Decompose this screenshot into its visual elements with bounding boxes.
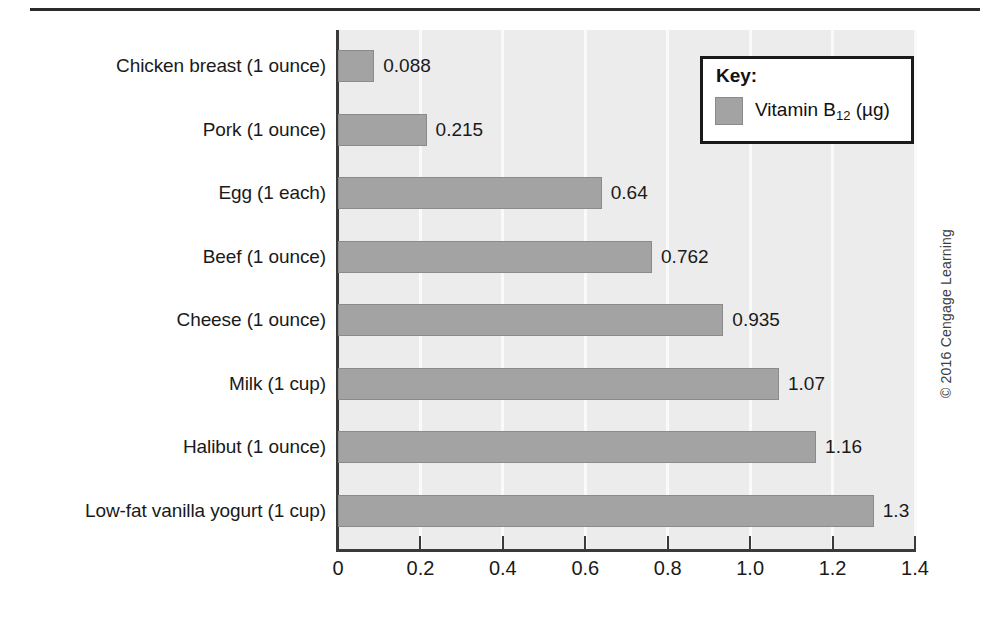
legend-swatch-vitamin-b12 bbox=[715, 97, 743, 125]
bar-value-label: 1.16 bbox=[825, 436, 862, 458]
x-tick-label-0.2: 0.2 bbox=[407, 557, 435, 580]
x-tick-0.4 bbox=[502, 536, 504, 550]
gridline-0.4 bbox=[501, 30, 504, 550]
legend-series-subscript: 12 bbox=[836, 108, 850, 123]
category-label: Chicken breast (1 ounce) bbox=[116, 55, 326, 77]
bar-value-label: 0.088 bbox=[383, 55, 431, 77]
bar-vitamin-b12 bbox=[338, 114, 427, 146]
x-tick-label-0.6: 0.6 bbox=[571, 557, 599, 580]
category-label: Cheese (1 ounce) bbox=[177, 309, 326, 331]
copyright-notice: © 2016 Cengage Learning bbox=[938, 229, 954, 398]
category-label: Low-fat vanilla yogurt (1 cup) bbox=[85, 500, 326, 522]
gridline-0.8 bbox=[666, 30, 669, 550]
bar-vitamin-b12 bbox=[338, 177, 602, 209]
bar-row: Halibut (1 ounce)1.16 bbox=[0, 431, 991, 463]
chart-figure: Chicken breast (1 ounce)0.088Pork (1 oun… bbox=[0, 0, 991, 622]
bar-row: Milk (1 cup)1.07 bbox=[0, 368, 991, 400]
bar-vitamin-b12 bbox=[338, 368, 779, 400]
legend-series-prefix: Vitamin B bbox=[755, 99, 836, 120]
bar-vitamin-b12 bbox=[338, 431, 816, 463]
bar-value-label: 0.64 bbox=[611, 182, 648, 204]
x-tick-label-0.4: 0.4 bbox=[489, 557, 517, 580]
top-divider-rule bbox=[30, 8, 980, 11]
legend-series-label: Vitamin B12 (µg) bbox=[755, 99, 890, 121]
category-label: Egg (1 each) bbox=[218, 182, 326, 204]
bar-vitamin-b12 bbox=[338, 495, 874, 527]
bar-row: Low-fat vanilla yogurt (1 cup)1.3 bbox=[0, 495, 991, 527]
x-tick-label-1.0: 1.0 bbox=[736, 557, 764, 580]
legend-title: Key: bbox=[716, 65, 757, 87]
category-label: Halibut (1 ounce) bbox=[183, 436, 326, 458]
bar-vitamin-b12 bbox=[338, 241, 652, 273]
category-label: Beef (1 ounce) bbox=[203, 246, 326, 268]
x-tick-label-0: 0 bbox=[332, 557, 343, 580]
bar-vitamin-b12 bbox=[338, 304, 723, 336]
bar-value-label: 0.215 bbox=[436, 119, 484, 141]
bar-row: Egg (1 each)0.64 bbox=[0, 177, 991, 209]
category-label: Pork (1 ounce) bbox=[203, 119, 326, 141]
bar-value-label: 0.935 bbox=[732, 309, 780, 331]
gridline-0.2 bbox=[419, 30, 422, 550]
x-tick-1.2 bbox=[832, 536, 834, 550]
x-tick-1.0 bbox=[749, 536, 751, 550]
category-label: Milk (1 cup) bbox=[229, 373, 326, 395]
legend-series-suffix: (µg) bbox=[850, 99, 889, 120]
bar-value-label: 1.3 bbox=[883, 500, 909, 522]
x-tick-1.4 bbox=[914, 536, 916, 550]
x-axis-line bbox=[336, 549, 916, 552]
y-axis-line bbox=[336, 30, 339, 551]
gridline-0.6 bbox=[584, 30, 587, 550]
x-tick-label-1.4: 1.4 bbox=[901, 557, 929, 580]
bar-vitamin-b12 bbox=[338, 50, 374, 82]
x-tick-label-0.8: 0.8 bbox=[654, 557, 682, 580]
bar-row: Cheese (1 ounce)0.935 bbox=[0, 304, 991, 336]
bar-value-label: 0.762 bbox=[661, 246, 709, 268]
x-tick-0.8 bbox=[667, 536, 669, 550]
x-tick-0.6 bbox=[584, 536, 586, 550]
bar-value-label: 1.07 bbox=[788, 373, 825, 395]
legend-key-box: Key: Vitamin B12 (µg) bbox=[700, 56, 914, 144]
x-tick-0.2 bbox=[419, 536, 421, 550]
bar-row: Beef (1 ounce)0.762 bbox=[0, 241, 991, 273]
x-tick-label-1.2: 1.2 bbox=[819, 557, 847, 580]
